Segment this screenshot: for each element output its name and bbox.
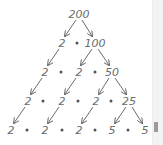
- factor-number: 100: [85, 38, 106, 49]
- arrow-icon: [48, 49, 59, 65]
- factor-number: 25: [122, 96, 136, 107]
- multiply-dot-icon: [110, 100, 113, 103]
- multiply-dot-icon: [77, 100, 80, 103]
- arrow-icon: [99, 78, 109, 94]
- factor-number: 2: [8, 125, 15, 136]
- factor-number: 2: [93, 96, 100, 107]
- factor-number: 5: [142, 125, 149, 136]
- multiply-dot-icon: [60, 71, 63, 74]
- multiply-dot-icon: [42, 100, 45, 103]
- factor-number: 50: [105, 67, 119, 78]
- factor-number: 2: [76, 67, 83, 78]
- arrow-icon: [65, 78, 76, 94]
- arrow-icon: [48, 107, 59, 123]
- multiply-dot-icon: [94, 71, 97, 74]
- factor-number: 2: [25, 96, 32, 107]
- factor-number: 2: [59, 38, 66, 49]
- arrow-icon: [115, 78, 126, 94]
- arrow-icon: [82, 107, 93, 123]
- multiply-dot-icon: [26, 129, 29, 132]
- factor-number: 2: [76, 125, 83, 136]
- factor-number: 5: [109, 125, 116, 136]
- scrollbar-thumb[interactable]: [154, 122, 158, 132]
- factor-number: 2: [42, 67, 49, 78]
- arrow-icon: [115, 107, 126, 123]
- multiply-dot-icon: [127, 129, 130, 132]
- factor-tree-diagram: 200210022502222522255: [0, 0, 152, 145]
- arrow-icon: [31, 78, 42, 94]
- factor-number: 2: [42, 125, 49, 136]
- multiply-dot-icon: [76, 42, 79, 45]
- arrow-icon: [81, 49, 92, 65]
- arrow-icon: [65, 20, 76, 36]
- arrow-icon: [98, 49, 109, 65]
- multiply-dot-icon: [61, 129, 64, 132]
- factor-number: 200: [69, 9, 90, 20]
- multiply-dot-icon: [94, 129, 97, 132]
- factor-number: 2: [59, 96, 66, 107]
- arrow-icon: [132, 107, 142, 123]
- arrow-icon: [14, 107, 25, 123]
- arrow-icon: [82, 20, 92, 36]
